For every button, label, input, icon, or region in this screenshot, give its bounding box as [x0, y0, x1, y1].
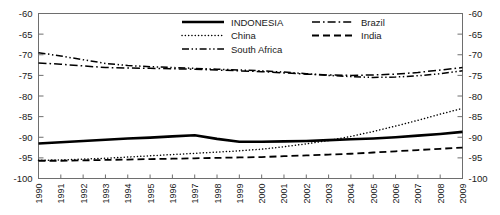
y-tick-label-right: -90: [469, 132, 483, 143]
x-tick-label: 1999: [235, 184, 245, 204]
line-chart: -60-65-70-75-80-85-90-95-100 -60-65-70-7…: [0, 0, 500, 215]
y-tick-label-left: -85: [19, 111, 33, 122]
x-tick-label: 2009: [458, 184, 468, 204]
y-tick-label-right: -70: [469, 49, 483, 60]
y-tick-label-left: -65: [19, 29, 33, 40]
x-tick-label: 1998: [213, 184, 223, 204]
x-tick-label: 1991: [56, 184, 66, 204]
series-line-indonesia: [39, 132, 463, 144]
y-tick-label-right: -100: [469, 173, 488, 184]
series-line-brazil: [39, 63, 463, 75]
x-tick-label: 1995: [146, 184, 156, 204]
y-tick-label-right: -80: [469, 91, 483, 102]
legend-label-south-africa: South Africa: [231, 44, 283, 55]
data-series-group: [39, 53, 463, 161]
x-tick-label: 2005: [369, 184, 379, 204]
x-tick-label: 1990: [34, 184, 44, 204]
x-tick-label: 1992: [79, 184, 89, 204]
y-axis-left-labels: -60-65-70-75-80-85-90-95-100: [13, 8, 32, 184]
y-tick-label-right: -75: [469, 70, 483, 81]
y-axis-left-ticks: [39, 14, 44, 179]
legend-label-indonesia: INDONESIA: [231, 17, 284, 28]
x-tick-label: 2008: [436, 184, 446, 204]
x-tick-label: 2006: [391, 184, 401, 204]
chart-container: -60-65-70-75-80-85-90-95-100 -60-65-70-7…: [0, 0, 500, 215]
y-tick-label-left: -95: [19, 152, 33, 163]
x-axis-ticks: [39, 175, 463, 179]
y-tick-label-left: -100: [13, 173, 32, 184]
x-tick-label: 1994: [123, 184, 133, 204]
x-tick-label: 2002: [302, 184, 312, 204]
x-tick-label: 2003: [324, 184, 334, 204]
y-tick-label-right: -60: [469, 8, 483, 19]
y-tick-label-left: -75: [19, 70, 33, 81]
x-axis-labels: 1990199119921993199419951996199719981999…: [34, 184, 468, 204]
series-line-china: [39, 108, 463, 160]
legend-label-china: China: [231, 30, 257, 41]
series-line-india: [39, 148, 463, 161]
legend-label-india: India: [361, 30, 382, 41]
y-tick-label-left: -90: [19, 132, 33, 143]
y-axis-right-ticks: [458, 14, 463, 179]
x-tick-label: 2000: [257, 184, 267, 204]
legend-label-brazil: Brazil: [361, 17, 385, 28]
x-tick-label: 2007: [413, 184, 423, 204]
y-tick-label-left: -80: [19, 91, 33, 102]
y-tick-label-right: -95: [469, 152, 483, 163]
x-tick-label: 1997: [190, 184, 200, 204]
y-tick-label-left: -70: [19, 49, 33, 60]
chart-legend: INDONESIABrazilChinaIndiaSouth Africa: [182, 17, 385, 55]
x-tick-label: 1996: [168, 184, 178, 204]
y-axis-right-labels: -60-65-70-75-80-85-90-95-100: [469, 8, 488, 184]
x-tick-label: 2004: [346, 184, 356, 204]
x-tick-label: 1993: [101, 184, 111, 204]
y-tick-label-right: -65: [469, 29, 483, 40]
y-tick-label-right: -85: [469, 111, 483, 122]
x-tick-label: 2001: [279, 184, 289, 204]
y-tick-label-left: -60: [19, 8, 33, 19]
